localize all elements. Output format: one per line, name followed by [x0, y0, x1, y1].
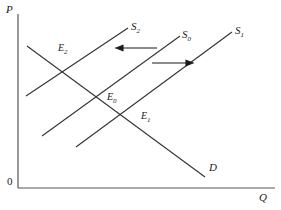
supply-demand-diagram: P Q 0 S2 S0 S1 D E2 E0 E1	[0, 0, 281, 210]
equilibrium-e0-label: E0	[107, 92, 117, 105]
shift-arrow-left-head	[116, 45, 123, 50]
curve-label-subscript: 0	[188, 35, 192, 43]
axes-group	[18, 14, 275, 188]
point-label-subscript: 2	[64, 48, 68, 56]
equilibrium-e1-label: E1	[141, 111, 151, 124]
supply-curve-s0-label: S0	[182, 29, 191, 43]
curves-group	[26, 28, 232, 177]
supply-curve-s2	[26, 28, 128, 96]
arrows-group	[116, 45, 193, 65]
demand-curve-d	[27, 46, 205, 177]
curve-label-subscript: 1	[241, 31, 245, 39]
curve-label-subscript: 2	[137, 27, 141, 35]
supply-curve-s1	[76, 32, 232, 147]
point-label-subscript: 0	[113, 97, 117, 105]
curve-label-text: D	[209, 161, 217, 173]
equilibrium-e2-label: E2	[58, 43, 68, 56]
supply-curve-s2-label: S2	[131, 21, 140, 35]
demand-curve-d-label: D	[209, 162, 217, 176]
origin-label: 0	[7, 176, 13, 187]
supply-curve-s1-label: S1	[235, 25, 244, 39]
point-label-subscript: 1	[147, 116, 151, 124]
y-axis-label: P	[6, 4, 13, 15]
x-axis-label: Q	[259, 192, 267, 203]
